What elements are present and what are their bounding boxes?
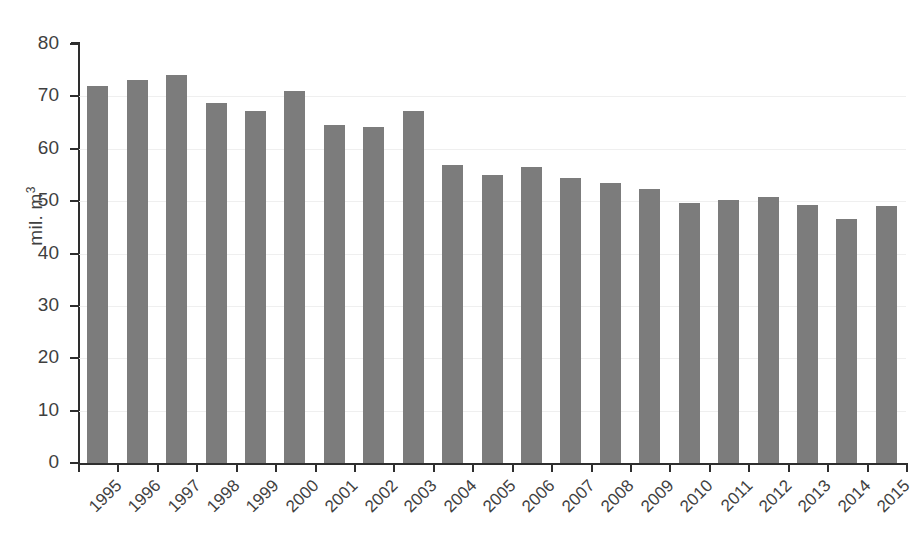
x-axis-line bbox=[78, 463, 906, 465]
y-axis-tick-label: 10 bbox=[38, 399, 59, 421]
bar bbox=[560, 178, 581, 463]
x-axis-tick-label: 1996 bbox=[124, 476, 165, 517]
bar bbox=[600, 183, 621, 463]
x-axis-tick-label: 2010 bbox=[676, 476, 717, 517]
x-axis-tick-label-text: 2001 bbox=[322, 476, 363, 517]
bar bbox=[836, 219, 857, 463]
x-axis-tick bbox=[157, 463, 159, 472]
x-axis-tick-label: 2014 bbox=[834, 476, 875, 517]
x-axis-tick-label-text: 2007 bbox=[558, 476, 599, 517]
y-axis-tick-label: 50 bbox=[38, 189, 59, 211]
x-axis-tick bbox=[630, 463, 632, 472]
x-axis-tick-label: 1995 bbox=[85, 476, 126, 517]
bar bbox=[87, 86, 108, 463]
bar bbox=[403, 111, 424, 463]
x-axis-tick-label-text: 2006 bbox=[519, 476, 560, 517]
x-axis-tick-label-text: 1997 bbox=[164, 476, 205, 517]
bar bbox=[679, 203, 700, 463]
x-axis-tick-label-text: 2004 bbox=[440, 476, 481, 517]
x-axis-tick bbox=[196, 463, 198, 472]
x-axis-tick-label-text: 2013 bbox=[795, 476, 836, 517]
x-axis-tick-label: 2009 bbox=[637, 476, 678, 517]
x-axis-tick-label-text: 2011 bbox=[717, 476, 757, 516]
x-axis-tick-label: 2000 bbox=[282, 476, 323, 517]
x-axis-tick bbox=[669, 463, 671, 472]
x-axis-tick-label: 2003 bbox=[400, 476, 441, 517]
x-axis-tick-label: 1998 bbox=[203, 476, 244, 517]
x-axis-tick bbox=[433, 463, 435, 472]
gridline bbox=[78, 96, 906, 97]
bar bbox=[639, 189, 660, 463]
y-axis-tick: 50 bbox=[70, 200, 79, 202]
bar bbox=[206, 103, 227, 463]
x-axis-tick bbox=[788, 463, 790, 472]
x-axis-tick-label-text: 1999 bbox=[243, 476, 284, 517]
x-axis-tick bbox=[472, 463, 474, 472]
x-axis-tick-label-text: 2014 bbox=[834, 476, 875, 517]
x-axis-tick-label: 2015 bbox=[874, 476, 915, 517]
bar bbox=[797, 205, 818, 463]
x-axis-tick bbox=[393, 463, 395, 472]
x-axis-tick-label-text: 2008 bbox=[598, 476, 639, 517]
y-axis-tick: 10 bbox=[70, 410, 79, 412]
y-axis-tick: 60 bbox=[70, 148, 79, 150]
bar bbox=[324, 125, 345, 463]
x-axis-tick bbox=[906, 463, 908, 472]
bar bbox=[521, 167, 542, 463]
x-axis-tick bbox=[867, 463, 869, 472]
bar bbox=[166, 75, 187, 463]
x-axis-tick-label: 2013 bbox=[795, 476, 836, 517]
y-axis-tick-label: 30 bbox=[38, 294, 59, 316]
x-axis-tick bbox=[591, 463, 593, 472]
x-axis-tick-label: 2006 bbox=[519, 476, 560, 517]
x-axis-tick-label: 2004 bbox=[440, 476, 481, 517]
x-axis-tick-label-text: 2009 bbox=[637, 476, 678, 517]
bar bbox=[482, 175, 503, 463]
bar bbox=[127, 80, 148, 463]
bar bbox=[758, 197, 779, 463]
x-axis-tick bbox=[315, 463, 317, 472]
y-axis-tick-label: 70 bbox=[38, 84, 59, 106]
x-axis-tick-label: 2012 bbox=[755, 476, 796, 517]
x-axis-tick bbox=[709, 463, 711, 472]
x-axis-tick-label-text: 1995 bbox=[85, 476, 126, 517]
x-axis-tick-label: 2007 bbox=[558, 476, 599, 517]
x-axis-tick-label-text: 1998 bbox=[203, 476, 244, 517]
x-axis-tick bbox=[827, 463, 829, 472]
x-axis-tick bbox=[78, 463, 80, 472]
bar bbox=[245, 111, 266, 463]
y-axis-title-superscript: 3 bbox=[24, 186, 38, 193]
bar bbox=[442, 165, 463, 463]
x-axis-tick-label: 2011 bbox=[717, 476, 757, 516]
plot-area: 01020304050607080 1995199619971998199920… bbox=[78, 44, 906, 463]
x-axis-tick bbox=[275, 463, 277, 472]
x-axis-tick-label-text: 2002 bbox=[361, 476, 402, 517]
y-axis-tick: 20 bbox=[70, 357, 79, 359]
bar bbox=[363, 127, 384, 463]
y-axis-tick-label: 20 bbox=[38, 346, 59, 368]
bar-chart: mil. m3 01020304050607080 19951996199719… bbox=[0, 0, 918, 545]
x-axis-tick-label-text: 2000 bbox=[282, 476, 323, 517]
y-axis-tick-label: 0 bbox=[48, 451, 59, 473]
x-axis-tick-label: 2005 bbox=[479, 476, 520, 517]
x-axis-tick-label-text: 2010 bbox=[676, 476, 717, 517]
x-axis-tick-label-text: 2015 bbox=[874, 476, 915, 517]
bar bbox=[284, 91, 305, 463]
x-axis-tick-label-text: 2003 bbox=[400, 476, 441, 517]
y-axis-tick: 80 bbox=[70, 43, 79, 45]
bar bbox=[718, 200, 739, 463]
y-axis-tick-label: 40 bbox=[38, 242, 59, 264]
x-axis-tick-label: 2002 bbox=[361, 476, 402, 517]
gridline bbox=[78, 149, 906, 150]
y-axis-tick: 70 bbox=[70, 95, 79, 97]
bar bbox=[876, 206, 897, 463]
x-axis-tick-label: 2001 bbox=[322, 476, 363, 517]
y-axis-tick: 30 bbox=[70, 305, 79, 307]
x-axis-tick bbox=[236, 463, 238, 472]
y-axis-title: mil. m3 bbox=[25, 136, 47, 296]
x-axis-tick-label-text: 2012 bbox=[755, 476, 796, 517]
x-axis-tick-label-text: 1996 bbox=[124, 476, 165, 517]
x-axis-tick bbox=[551, 463, 553, 472]
x-axis-tick-label: 2008 bbox=[598, 476, 639, 517]
x-axis-tick bbox=[117, 463, 119, 472]
